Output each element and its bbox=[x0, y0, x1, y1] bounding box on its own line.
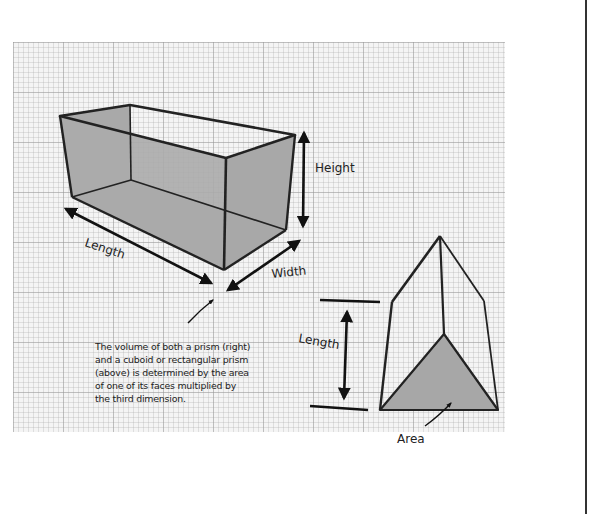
prism-length-arrow bbox=[344, 312, 347, 398]
caption-pointer-arrow bbox=[188, 300, 213, 323]
cuboid-width-label: Width bbox=[271, 263, 307, 281]
prism-area-label: Area bbox=[397, 432, 425, 446]
cuboid-height-label: Height bbox=[315, 161, 355, 175]
triangular-prism bbox=[380, 236, 498, 410]
prism-length-guide-bottom bbox=[310, 406, 368, 410]
volume-caption: The volume of both a prism (right) and a… bbox=[95, 340, 285, 405]
volume-diagram: Length Width Height Length Area bbox=[0, 0, 593, 514]
cuboid-height-arrow bbox=[303, 133, 304, 226]
prism-length-label: Length bbox=[297, 331, 340, 352]
cuboid-length-label: Length bbox=[83, 236, 127, 262]
prism-triangle-face bbox=[380, 334, 498, 410]
prism-length-guide-top bbox=[320, 300, 380, 302]
